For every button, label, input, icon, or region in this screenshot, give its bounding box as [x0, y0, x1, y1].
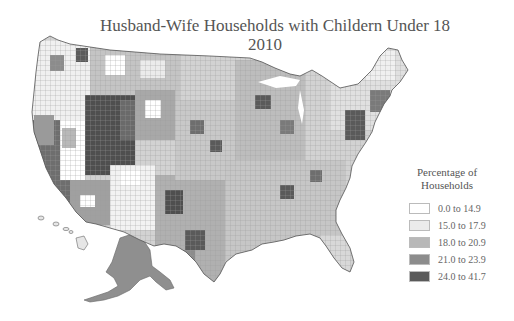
- legend-swatch: [409, 254, 430, 265]
- legend-swatch: [409, 237, 430, 248]
- legend-label: 21.0 to 23.9: [438, 254, 486, 265]
- legend-item: 18.0 to 20.9: [404, 234, 514, 251]
- legend-item: 21.0 to 23.9: [404, 251, 514, 268]
- legend-item: 0.0 to 14.9: [404, 200, 514, 217]
- legend-label: 15.0 to 17.9: [438, 220, 486, 231]
- legend: Percentage of Households 0.0 to 14.9 15.…: [404, 166, 514, 285]
- map-title: Husband-Wife Households with Childern Un…: [100, 16, 430, 54]
- map-title-line1: Husband-Wife Households with Childern Un…: [100, 16, 430, 35]
- legend-title-line1: Percentage of: [408, 166, 486, 179]
- legend-item: 24.0 to 41.7: [404, 268, 514, 285]
- hawaii-inset: [38, 216, 88, 250]
- map-title-year: 2010: [100, 35, 430, 54]
- legend-swatch: [409, 271, 430, 282]
- legend-label: 18.0 to 20.9: [438, 237, 486, 248]
- legend-title: Percentage of Households: [408, 166, 486, 192]
- legend-title-line2: Households: [408, 179, 486, 192]
- legend-items: 0.0 to 14.9 15.0 to 17.9 18.0 to 20.9 21…: [404, 200, 514, 285]
- legend-swatch: [409, 220, 430, 231]
- legend-swatch: [409, 203, 430, 214]
- legend-item: 15.0 to 17.9: [404, 217, 514, 234]
- legend-label: 0.0 to 14.9: [438, 203, 481, 214]
- legend-label: 24.0 to 41.7: [438, 271, 486, 282]
